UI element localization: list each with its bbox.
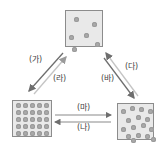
particle [16,131,21,136]
particle [95,42,100,47]
particle [139,107,144,112]
particle [30,103,35,108]
particle [69,35,74,40]
particle [44,103,49,108]
label-ma: (마) [77,104,90,112]
particle [126,134,131,139]
liquid-state-box [117,103,154,140]
particle [37,110,42,115]
particle [145,117,150,122]
particle [37,117,42,122]
particle [131,138,136,143]
label-na: (나) [77,124,90,132]
label-ba: (바) [101,75,114,83]
particle [23,117,28,122]
particle [92,22,97,27]
particle [16,124,21,129]
particle [23,131,28,136]
particle [44,124,49,129]
particle [37,124,42,129]
label-da: (다) [125,63,138,71]
particle [23,103,28,108]
particle [72,47,77,52]
particle [126,118,131,123]
particle [145,134,150,139]
particle [16,117,21,122]
label-ra: (라) [53,75,66,83]
solid-state-box [12,100,52,137]
particle [23,110,28,115]
particle [37,131,42,136]
particle [74,17,79,22]
particle [23,124,28,129]
particle [148,109,153,114]
particle [30,131,35,136]
particle [136,115,141,120]
particle [136,133,141,138]
particle [149,127,154,132]
particle [121,109,126,114]
particle [37,103,42,108]
particle [130,106,135,111]
particle [30,110,35,115]
particle [151,137,156,142]
particle [30,124,35,129]
particle [30,117,35,122]
label-ga: (가) [29,56,42,64]
particle [44,110,49,115]
gas-state-box [65,10,103,47]
particle [16,103,21,108]
particle [16,110,21,115]
particle [84,33,89,38]
particle [131,125,136,130]
particle [44,131,49,136]
particle [141,123,146,128]
particle [121,127,126,132]
particle [44,117,49,122]
